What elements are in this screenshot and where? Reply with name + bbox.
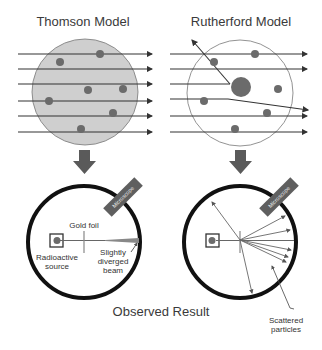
nucleus: [231, 77, 251, 97]
radioactive-source: [209, 237, 216, 244]
rutherford-title: Rutherford Model: [191, 14, 292, 29]
down-arrow-icon: [229, 150, 252, 174]
observed-title: Observed Result: [113, 304, 210, 319]
diverged-label-2: diverged: [98, 257, 129, 266]
radioactive-source: [54, 237, 61, 244]
observed-chamber-left: Microscope Gold foil Radioactive source …: [28, 177, 143, 298]
diverged-label-3: beam: [103, 266, 123, 275]
radioactive-source-label-2: source: [45, 262, 70, 271]
rutherford-experiment-diagram: Thomson Model Rutherford Model: [0, 0, 322, 350]
radioactive-source-label-1: Radioactive: [36, 253, 78, 262]
thomson-title: Thomson Model: [36, 14, 129, 29]
thomson-model: [18, 39, 152, 145]
rutherford-model: [170, 40, 308, 146]
diverged-label-1: Slightly: [100, 248, 126, 257]
scattered-label-1: Scattered: [269, 316, 303, 325]
down-arrow-icon: [73, 150, 96, 174]
gold-foil-label: Gold foil: [69, 221, 99, 230]
scattered-label-2: particles: [271, 325, 301, 334]
